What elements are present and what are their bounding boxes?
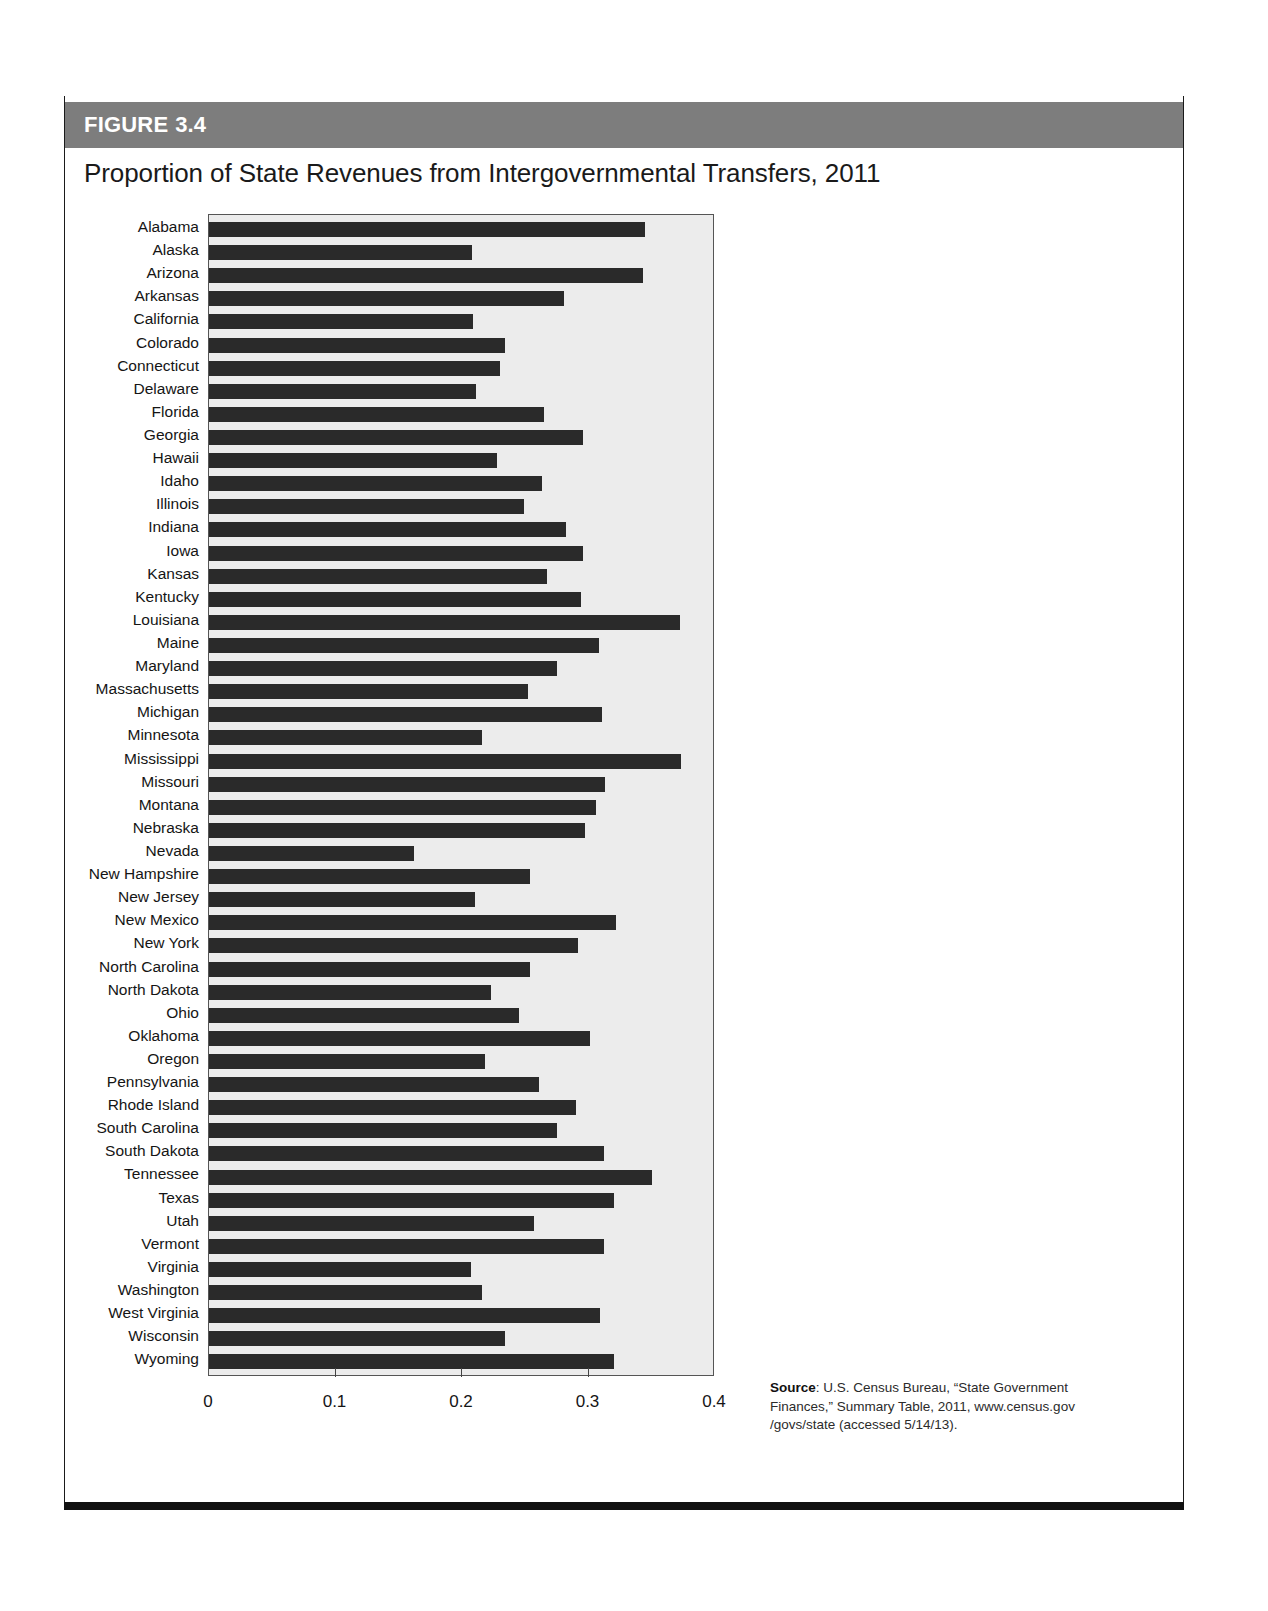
y-axis-label: Oklahoma [65, 1024, 205, 1047]
bar-row [209, 726, 713, 749]
bar [209, 222, 645, 237]
bar [209, 1008, 519, 1023]
bar [209, 1054, 485, 1069]
bar [209, 1239, 604, 1254]
bar-row [209, 310, 713, 333]
bar [209, 291, 564, 306]
chart-title: Proportion of State Revenues from Interg… [84, 158, 880, 189]
bar-row [209, 218, 713, 241]
bar-row [209, 287, 713, 310]
y-axis-label: Texas [65, 1186, 205, 1209]
bar-row [209, 888, 713, 911]
y-axis-label: Montana [65, 793, 205, 816]
source-text: : U.S. Census Bureau, “State Government … [770, 1380, 1075, 1432]
y-axis-label: Minnesota [65, 723, 205, 746]
y-axis-label: Maine [65, 631, 205, 654]
bar-row [209, 1281, 713, 1304]
y-axis-label: Michigan [65, 700, 205, 723]
bar-row [209, 565, 713, 588]
y-axis-label: West Virginia [65, 1301, 205, 1324]
y-axis-label: Idaho [65, 469, 205, 492]
bar [209, 615, 680, 630]
bar-row [209, 634, 713, 657]
bar-row [209, 1142, 713, 1165]
bar [209, 962, 530, 977]
bar-row [209, 357, 713, 380]
bar-row [209, 449, 713, 472]
bar [209, 1331, 505, 1346]
bar-row [209, 1189, 713, 1212]
y-axis-label: Delaware [65, 377, 205, 400]
figure-label: FIGURE [84, 112, 168, 138]
y-axis-label: Oregon [65, 1047, 205, 1070]
bar [209, 453, 497, 468]
bar [209, 499, 524, 514]
bar [209, 1262, 471, 1277]
bar-row [209, 495, 713, 518]
y-axis-labels: AlabamaAlaskaArizonaArkansasCaliforniaCo… [65, 215, 205, 1370]
y-axis-label: Louisiana [65, 608, 205, 631]
bar [209, 938, 578, 953]
bar [209, 707, 602, 722]
y-axis-label: Alabama [65, 215, 205, 238]
y-axis-label: South Carolina [65, 1116, 205, 1139]
bar [209, 985, 491, 1000]
y-axis-label: Nebraska [65, 816, 205, 839]
bar-row [209, 934, 713, 957]
y-axis-label: Alaska [65, 238, 205, 261]
bar-row [209, 1235, 713, 1258]
x-axis-tick [461, 1368, 462, 1377]
bar-row [209, 657, 713, 680]
x-axis-tick [588, 1368, 589, 1377]
bar [209, 1031, 590, 1046]
figure-bottom-rule [64, 1502, 1184, 1510]
bar-row [209, 865, 713, 888]
y-axis-label: North Dakota [65, 978, 205, 1001]
y-axis-label: Georgia [65, 423, 205, 446]
bar [209, 869, 530, 884]
bar [209, 314, 473, 329]
y-axis-label: Maryland [65, 654, 205, 677]
x-axis-tick-label: 0.3 [576, 1392, 600, 1412]
x-axis-tick-label: 0.4 [702, 1392, 726, 1412]
bar-row [209, 1073, 713, 1096]
figure-page: FIGURE 3.4 Proportion of State Revenues … [0, 0, 1268, 1611]
y-axis-label: Illinois [65, 492, 205, 515]
bar-row [209, 426, 713, 449]
y-axis-label: Hawaii [65, 446, 205, 469]
figure-number: 3.4 [175, 112, 206, 138]
y-axis-label: Ohio [65, 1001, 205, 1024]
bar-row [209, 1258, 713, 1281]
bar-row [209, 1212, 713, 1235]
bar [209, 730, 482, 745]
y-axis-label: Nevada [65, 839, 205, 862]
y-axis-label: Mississippi [65, 747, 205, 770]
bar [209, 338, 505, 353]
y-axis-label: Kansas [65, 562, 205, 585]
y-axis-label: California [65, 307, 205, 330]
source-label: Source [770, 1380, 816, 1395]
bar-row [209, 264, 713, 287]
x-axis-tick-label: 0 [203, 1392, 212, 1412]
bar-row [209, 1096, 713, 1119]
figure-frame: FIGURE 3.4 Proportion of State Revenues … [64, 96, 1184, 1508]
x-axis-tick-label: 0.1 [323, 1392, 347, 1412]
bar-row [209, 773, 713, 796]
bar [209, 407, 544, 422]
y-axis-label: New Mexico [65, 908, 205, 931]
bar-row [209, 241, 713, 264]
bar [209, 1077, 539, 1092]
bar [209, 684, 528, 699]
bar [209, 1308, 600, 1323]
y-axis-label: Pennsylvania [65, 1070, 205, 1093]
y-axis-label: New Hampshire [65, 862, 205, 885]
bar-row [209, 796, 713, 819]
y-axis-label: Florida [65, 400, 205, 423]
bar [209, 1146, 604, 1161]
y-axis-label: Wyoming [65, 1347, 205, 1370]
bar [209, 1285, 482, 1300]
bar [209, 661, 557, 676]
bar-row [209, 911, 713, 934]
bar-row [209, 403, 713, 426]
bar-row [209, 1327, 713, 1350]
